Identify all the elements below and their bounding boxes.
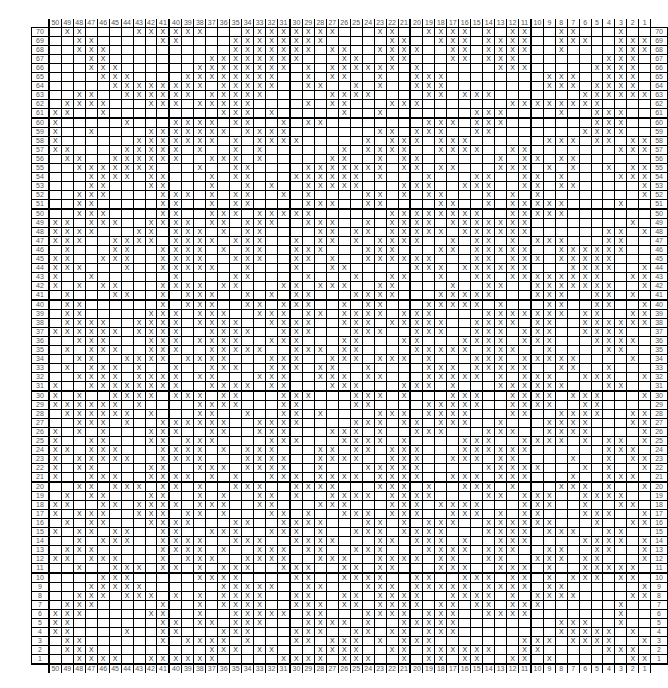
grid-cell [290, 446, 302, 455]
grid-cell: X [277, 564, 289, 574]
grid-cell [145, 573, 157, 583]
grid-cell: X [350, 273, 362, 282]
grid-cell: X [194, 137, 206, 146]
grid-cell [603, 191, 615, 200]
grid-cell [302, 364, 314, 373]
grid-cell: X [157, 219, 169, 228]
grid-cell: X [218, 73, 230, 82]
grid-cell: X [459, 573, 471, 583]
grid-cell: X [121, 564, 133, 574]
grid-cell [266, 246, 278, 255]
grid-cell: X [495, 109, 507, 119]
grid-cell [266, 300, 278, 310]
grid-cell [302, 464, 314, 473]
grid-cell: X [471, 401, 483, 410]
grid-cell: X [277, 555, 289, 564]
grid-cell: X [133, 82, 145, 91]
grid-cell [447, 528, 459, 537]
grid-cell: X [169, 273, 181, 282]
column-label: 47 [85, 664, 97, 673]
row-label-right: 4 [651, 628, 668, 637]
grid-cell [639, 55, 651, 64]
grid-cell [145, 537, 157, 546]
grid-cell [435, 482, 447, 492]
grid-cell: X [410, 155, 422, 164]
grid-cell: X [423, 91, 435, 100]
grid-cell: X [326, 364, 338, 373]
grid-cell: X [49, 510, 61, 519]
grid-cell: X [374, 173, 386, 182]
grid-cell: X [471, 473, 483, 483]
grid-cell: X [555, 382, 567, 392]
grid-cell [61, 182, 73, 191]
grid-cell [97, 237, 109, 246]
grid-cell: X [109, 573, 121, 583]
grid-cell [423, 446, 435, 455]
grid-cell [591, 473, 603, 483]
grid-cell [61, 191, 73, 200]
grid-cell [639, 573, 651, 583]
grid-cell [627, 610, 639, 619]
grid-cell: X [639, 464, 651, 473]
grid-cell [603, 410, 615, 419]
grid-cell: X [61, 155, 73, 164]
grid-cell: X [302, 73, 314, 82]
grid-cell: X [543, 592, 555, 601]
grid-cell: X [61, 328, 73, 337]
row-label-right: 17 [651, 510, 668, 519]
grid-cell: X [85, 583, 97, 592]
grid-cell: X [374, 355, 386, 364]
row-label-left: 58 [32, 137, 49, 146]
grid-cell [531, 455, 543, 464]
grid-cell [555, 637, 567, 646]
grid-cell [386, 573, 398, 583]
grid-cell [531, 146, 543, 155]
grid-cell [555, 219, 567, 228]
grid-cell: X [471, 146, 483, 155]
grid-cell [109, 300, 121, 310]
grid-cell [579, 300, 591, 310]
grid-cell: X [314, 610, 326, 619]
grid-cell: X [423, 128, 435, 137]
grid-cell [266, 637, 278, 646]
grid-cell [555, 455, 567, 464]
grid-cell: X [338, 346, 350, 355]
grid-cell: X [543, 273, 555, 282]
grid-cell [254, 164, 266, 173]
grid-cell [627, 555, 639, 564]
grid-cell: X [398, 310, 410, 319]
grid-cell [579, 601, 591, 610]
grid-cell: X [591, 291, 603, 301]
grid-cell: X [362, 619, 374, 628]
grid-cell [290, 191, 302, 200]
grid-cell: X [206, 319, 218, 328]
grid-cell: X [182, 473, 194, 483]
grid-cell: X [242, 237, 254, 246]
grid-cell: X [314, 346, 326, 355]
grid-cell: X [410, 637, 422, 646]
grid-cell: X [302, 300, 314, 310]
grid-cell [97, 355, 109, 364]
grid-cell [591, 646, 603, 655]
grid-cell: X [194, 419, 206, 428]
grid-cell [109, 182, 121, 191]
grid-cell: X [157, 428, 169, 437]
grid-cell: X [254, 146, 266, 155]
grid-cell [567, 55, 579, 64]
grid-cell: X [350, 564, 362, 574]
grid-cell: X [97, 364, 109, 373]
grid-cell: X [218, 464, 230, 473]
grid-cell: X [471, 182, 483, 191]
grid-cell [615, 464, 627, 473]
grid-cell [145, 455, 157, 464]
grid-cell [133, 282, 145, 291]
grid-cell: X [73, 601, 85, 610]
grid-cell: X [61, 628, 73, 637]
grid-cell: X [97, 328, 109, 337]
grid-cell [519, 291, 531, 301]
grid-cell [169, 637, 181, 646]
grid-cell: X [302, 619, 314, 628]
grid-cell: X [302, 482, 314, 492]
grid-cell [639, 100, 651, 109]
grid-cell [182, 182, 194, 191]
